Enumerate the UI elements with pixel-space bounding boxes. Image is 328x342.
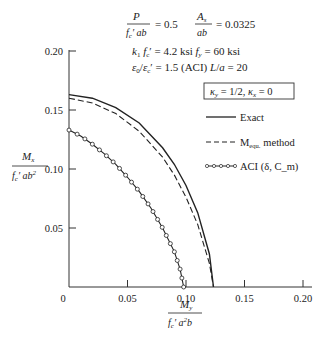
frac-p-num: P bbox=[132, 10, 140, 22]
svg-text:ab: ab bbox=[197, 27, 207, 38]
y-axis-label: Mx fc′ ab2 bbox=[12, 150, 48, 183]
legend-exact-label: Exact bbox=[240, 112, 264, 123]
aci-marker bbox=[151, 210, 155, 214]
x-tick-label: 0 bbox=[60, 293, 65, 304]
kappa-annotation-box: κy = 1/2, κx = 0 bbox=[204, 83, 294, 99]
aci-marker bbox=[164, 233, 168, 237]
aci-marker bbox=[83, 137, 87, 141]
aci-marker bbox=[97, 148, 101, 152]
param-line-3: ε0/εc′ = 1.5 (ACI) L/a = 20 bbox=[132, 61, 248, 75]
aci-marker bbox=[175, 258, 179, 262]
param-line-2: k1 fc′ = 4.2 ksi fy = 60 ksi bbox=[132, 45, 240, 59]
y-ticks: 0.050.100.150.20 bbox=[45, 46, 76, 234]
plot-series bbox=[67, 95, 213, 289]
aci-marker bbox=[135, 187, 139, 191]
chart-parameters: P fc′ ab = 0.5 As ab = 0.0325 k1 fc′ = 4… bbox=[126, 10, 256, 75]
aci-marker bbox=[67, 128, 71, 132]
series-line bbox=[69, 98, 213, 287]
svg-text:As: As bbox=[196, 10, 207, 24]
aci-marker bbox=[90, 142, 94, 146]
frac-p-den: fc′ ab bbox=[126, 27, 147, 40]
p-ratio-value: = 0.5 bbox=[155, 18, 178, 30]
x-axis-label: My fc′ a2b bbox=[168, 298, 202, 330]
aci-marker bbox=[180, 276, 184, 280]
aci-marker bbox=[178, 267, 182, 271]
aci-marker bbox=[182, 285, 186, 289]
svg-text:Mx: Mx bbox=[21, 150, 35, 164]
x-tick-label: 0.05 bbox=[118, 293, 136, 304]
steel-ratio-value: = 0.0325 bbox=[216, 18, 256, 30]
y-tick-label: 0.15 bbox=[45, 105, 63, 116]
x-tick-label: 0.20 bbox=[294, 293, 312, 304]
legend-aci-label: ACI (δ, C_m) bbox=[240, 161, 299, 173]
aci-marker bbox=[156, 217, 160, 221]
interaction-chart: P fc′ ab = 0.5 As ab = 0.0325 k1 fc′ = 4… bbox=[0, 0, 328, 342]
series-line bbox=[69, 95, 213, 287]
legend-aci-swatch bbox=[205, 164, 236, 167]
y-tick-label: 0.20 bbox=[45, 46, 63, 57]
legend-mequ-label: Mequ.method bbox=[240, 137, 296, 149]
aci-marker bbox=[168, 242, 172, 246]
aci-marker bbox=[75, 132, 79, 136]
aci-marker bbox=[146, 202, 150, 206]
aci-marker bbox=[111, 160, 115, 164]
x-tick-label: 0.15 bbox=[235, 293, 253, 304]
y-tick-label: 0.05 bbox=[45, 223, 63, 234]
svg-text:fc′ ab2: fc′ ab2 bbox=[12, 169, 37, 183]
svg-text:fc′ a2b: fc′ a2b bbox=[168, 316, 192, 330]
aci-marker bbox=[130, 180, 134, 184]
aci-marker bbox=[141, 194, 145, 198]
aci-marker bbox=[124, 173, 128, 177]
aci-marker bbox=[104, 154, 108, 158]
aci-marker bbox=[160, 225, 164, 229]
aci-marker bbox=[118, 166, 122, 170]
aci-marker bbox=[172, 250, 176, 254]
svg-text:κy = 1/2, κx = 0: κy = 1/2, κx = 0 bbox=[210, 86, 273, 99]
legend: Exact Mequ.method ACI (δ, C_m) bbox=[205, 112, 298, 173]
